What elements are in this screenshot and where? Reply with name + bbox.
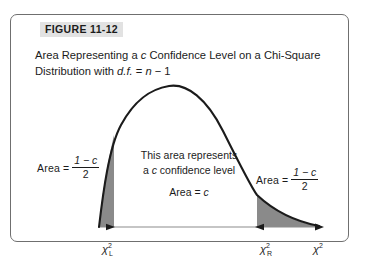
right-equals-sign: = (282, 174, 288, 186)
figure-number-label: FIGURE 11-12 (40, 22, 123, 37)
tick-label-chi-square-right: χ2R (260, 243, 272, 255)
chi-exponent-left: 2 (108, 242, 112, 249)
left-fraction-numerator: 1 − c (72, 155, 99, 168)
right-fraction: 1 − c 2 (291, 167, 318, 192)
left-fraction: 1 − c 2 (72, 155, 99, 180)
x-axis-label: χ2 (313, 243, 323, 255)
center-area-equation: Area = c (133, 185, 245, 200)
center-line-2: a c confidence level (133, 163, 245, 178)
chi-square-plot (11, 15, 350, 243)
center-area-var-c: c (203, 186, 208, 198)
right-fraction-numerator: 1 − c (291, 167, 318, 180)
center-line-1: This area represents (133, 148, 245, 163)
chi-subscript-right: R (267, 250, 272, 257)
center-annotation: This area represents a c confidence leve… (133, 148, 245, 200)
figure-number-tag: FIGURE 11-12 (33, 21, 130, 38)
left-fraction-denominator: 2 (83, 168, 89, 180)
left-tail-area-label: Area = 1 − c 2 (37, 155, 99, 180)
right-tail-area-label: Area = 1 − c 2 (256, 167, 318, 192)
tick-label-chi-square-left: χ2L (102, 243, 113, 255)
center-text-b: confidence level (157, 164, 235, 176)
right-area-word: Area (256, 174, 279, 186)
chi-exponent-right: 2 (266, 242, 270, 249)
center-area-text: Area = (169, 186, 203, 198)
chi-exponent-axis: 2 (319, 242, 323, 249)
left-area-word: Area (37, 162, 60, 174)
center-text-a: a (143, 164, 152, 176)
left-equals-sign: = (63, 162, 69, 174)
figure-box: FIGURE 11-12 Area Representing a c Confi… (10, 14, 349, 242)
right-fraction-denominator: 2 (302, 180, 308, 192)
chi-subscript-left: L (109, 250, 113, 257)
